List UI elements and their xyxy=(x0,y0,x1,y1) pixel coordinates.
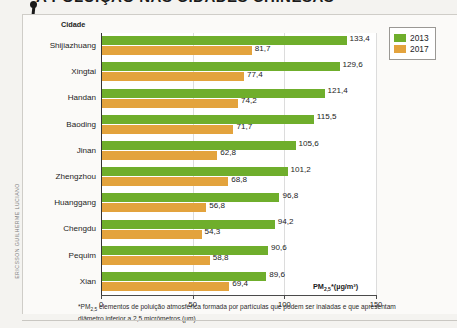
category-label: Zhengzhou xyxy=(55,172,96,181)
bar-row: Shijiazhuang133,481,7 xyxy=(101,33,398,59)
bar-2017[interactable]: 54,3 xyxy=(102,230,202,239)
headline-strip: A POLUIÇÃO NAS CIDADES CHINESAS xyxy=(0,0,457,13)
bar-2013[interactable]: 94,2 xyxy=(102,220,275,229)
chart-figure: Cidade 050100150 Shijiazhuang133,481,7Xi… xyxy=(22,14,457,314)
bar-2017[interactable]: 56,8 xyxy=(102,203,206,212)
legend-label-2013: 2013 xyxy=(410,33,429,43)
bar-row: Xingtai129,677,4 xyxy=(101,59,398,85)
category-label: Xingtai xyxy=(71,67,96,76)
bar-2017[interactable]: 71,7 xyxy=(102,125,233,134)
bar-2017[interactable]: 69,4 xyxy=(102,282,229,291)
x-tick-150 xyxy=(376,295,377,299)
bar-value-label: 105,6 xyxy=(299,139,319,148)
bar-row: Pequim90,658,8 xyxy=(101,243,398,269)
bar-2017[interactable]: 81,7 xyxy=(102,46,252,55)
x-tick-0 xyxy=(101,295,102,299)
category-label: Pequim xyxy=(69,251,96,260)
bar-value-label: 96,8 xyxy=(282,191,298,200)
bar-value-label: 54,3 xyxy=(205,227,221,236)
bar-value-label: 68,8 xyxy=(231,175,247,184)
page-headline: A POLUIÇÃO NAS CIDADES CHINESAS xyxy=(36,0,334,5)
bar-2017[interactable]: 74,2 xyxy=(102,99,238,108)
bar-value-label: 121,4 xyxy=(328,86,348,95)
x-tick-100 xyxy=(284,295,285,299)
bar-row: Huanggang96,856,8 xyxy=(101,190,398,216)
category-label: Baoding xyxy=(66,120,96,129)
bar-value-label: 90,6 xyxy=(271,243,287,252)
bar-value-label: 69,4 xyxy=(232,279,248,288)
bar-value-label: 74,2 xyxy=(241,96,257,105)
bar-value-label: 58,8 xyxy=(213,253,229,262)
bar-value-label: 62,8 xyxy=(220,148,236,157)
legend: 2013 2017 xyxy=(389,27,436,60)
figure-page: A POLUIÇÃO NAS CIDADES CHINESAS ERICSSON… xyxy=(0,0,457,328)
bar-value-label: 133,4 xyxy=(350,34,370,43)
bar-2013[interactable]: 121,4 xyxy=(102,89,325,98)
x-tick-50 xyxy=(193,295,194,299)
bar-2013[interactable]: 90,6 xyxy=(102,246,268,255)
bar-value-label: 56,8 xyxy=(209,201,225,210)
bar-2017[interactable]: 68,8 xyxy=(102,177,228,186)
bar-row: Chengdu94,254,3 xyxy=(101,216,398,242)
bar-row: Handan121,474,2 xyxy=(101,85,398,111)
bar-value-label: 81,7 xyxy=(255,44,271,53)
bar-2017[interactable]: 77,4 xyxy=(102,72,244,81)
bar-value-label: 129,6 xyxy=(343,60,363,69)
category-label: Handan xyxy=(68,93,96,102)
category-label: Xian xyxy=(80,277,96,286)
category-label: Shijiazhuang xyxy=(50,41,96,50)
plot-area: 050100150 Shijiazhuang133,481,7Xingtai12… xyxy=(101,33,398,295)
bar-2013[interactable]: 101,2 xyxy=(102,167,288,176)
bar-value-label: 94,2 xyxy=(278,217,294,226)
bottom-divider xyxy=(22,320,457,321)
bar-2013[interactable]: 105,6 xyxy=(102,141,296,150)
legend-item-2017[interactable]: 2017 xyxy=(394,44,429,54)
bar-row: Baoding115,571,7 xyxy=(101,112,398,138)
bar-row: Zhengzhou101,268,8 xyxy=(101,164,398,190)
image-credit: ERICSSON GUILHERME LUCIANO xyxy=(14,183,20,279)
y-axis-title: Cidade xyxy=(61,20,85,29)
bar-2017[interactable]: 62,8 xyxy=(102,151,217,160)
bar-2013[interactable]: 96,8 xyxy=(102,193,279,202)
bar-value-label: 77,4 xyxy=(247,70,263,79)
bar-2013[interactable]: 115,5 xyxy=(102,115,314,124)
bar-value-label: 101,2 xyxy=(291,165,311,174)
category-label: Huanggang xyxy=(54,198,96,207)
x-axis-line xyxy=(101,295,376,296)
bar-value-label: 89,6 xyxy=(269,270,285,279)
category-label: Jinan xyxy=(77,146,96,155)
bar-row: Jinan105,662,8 xyxy=(101,138,398,164)
legend-swatch-2017 xyxy=(394,45,406,53)
bar-2013[interactable]: 129,6 xyxy=(102,62,340,71)
category-label: Chengdu xyxy=(63,224,96,233)
bar-2017[interactable]: 58,8 xyxy=(102,256,210,265)
x-axis-title: PM2,5*(µg/m³) xyxy=(313,282,358,292)
legend-item-2013[interactable]: 2013 xyxy=(394,33,429,43)
bar-2013[interactable]: 133,4 xyxy=(102,36,347,45)
legend-label-2017: 2017 xyxy=(410,44,429,54)
legend-swatch-2013 xyxy=(394,34,406,42)
bar-value-label: 71,7 xyxy=(236,122,252,131)
bar-value-label: 115,5 xyxy=(317,112,337,121)
